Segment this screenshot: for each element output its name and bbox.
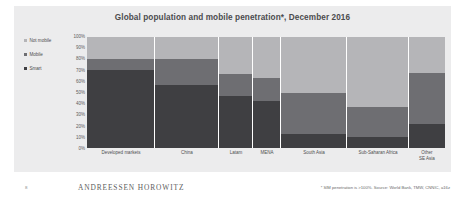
legend-label-smart: Smart — [29, 66, 41, 71]
source-note: * SIM penetration is >100%. Source: Worl… — [321, 185, 450, 190]
x-axis-label-primary: China — [155, 150, 219, 156]
y-axis-tick: 0% — [78, 146, 85, 151]
bar-segment-not-mobile — [281, 37, 346, 93]
legend-swatch-mobile — [24, 53, 27, 56]
bar-column — [253, 37, 281, 148]
y-axis-tick: 70% — [76, 67, 85, 72]
bar-segment-mobile — [347, 107, 408, 137]
bar-segment-not-mobile — [347, 37, 408, 107]
legend-label-mobile: Mobile — [29, 52, 43, 57]
y-axis-tick: 30% — [76, 112, 85, 117]
brand-wordmark: ANDREESSEN HOROWITZ — [78, 183, 184, 192]
bar-segment-smart — [219, 96, 252, 148]
bar-segment-not-mobile — [87, 37, 154, 59]
y-axis-tick: 60% — [76, 78, 85, 83]
x-axis-label: Sub-Saharan Africa — [347, 150, 409, 170]
plot-area — [87, 37, 445, 148]
x-axis-label: South Asia — [281, 150, 347, 170]
bar-column — [219, 37, 253, 148]
bar-segment-mobile — [253, 78, 280, 101]
x-axis-label: Developed markets — [87, 150, 155, 170]
bar-column — [281, 37, 347, 148]
bar-segment-smart — [409, 124, 445, 148]
x-axis-label-primary: MENA — [253, 150, 281, 156]
x-axis-label-primary: Developed markets — [87, 150, 155, 156]
bar-segment-mobile — [219, 74, 252, 96]
bar-segment-smart — [281, 134, 346, 148]
bar-column — [409, 37, 445, 148]
x-axis-label-primary: Sub-Saharan Africa — [347, 150, 409, 156]
bar-column — [155, 37, 219, 148]
chart-title: Global population and mobile penetration… — [14, 13, 451, 22]
bar-segment-not-mobile — [155, 37, 218, 59]
bar-segment-mobile — [409, 73, 445, 124]
y-axis-tick: 40% — [76, 101, 85, 106]
slide: Global population and mobile penetration… — [0, 0, 459, 205]
page-number: 8 — [25, 185, 27, 190]
bar-column — [347, 37, 409, 148]
x-axis-label: China — [155, 150, 219, 170]
legend-swatch-smart — [24, 67, 27, 70]
bar-segment-mobile — [281, 93, 346, 134]
y-axis-tick: 20% — [76, 123, 85, 128]
legend-swatch-not-mobile — [24, 39, 27, 42]
bar-segment-smart — [253, 101, 280, 148]
legend-label-not-mobile: Not mobile — [29, 38, 51, 43]
bar-segment-mobile — [87, 59, 154, 70]
y-axis-tick: 80% — [76, 56, 85, 61]
bar-segment-smart — [155, 85, 218, 148]
y-axis: 100%90%80%70%60%50%40%30%20%10%0% — [62, 36, 86, 148]
bar-segment-smart — [347, 137, 408, 148]
y-axis-tick: 100% — [73, 34, 85, 39]
x-axis-label-primary: Latam — [219, 150, 253, 156]
y-axis-tick: 10% — [76, 134, 85, 139]
y-axis-tick: 50% — [76, 90, 85, 95]
x-axis-label: MENA — [253, 150, 281, 170]
x-axis-label: Latam — [219, 150, 253, 170]
x-axis-label: OtherSE Asia — [409, 150, 445, 170]
bar-segment-smart — [87, 70, 154, 148]
bar-segment-not-mobile — [219, 37, 252, 74]
x-axis-label-secondary: SE Asia — [409, 156, 445, 162]
x-axis-labels: Developed marketsChinaLatamMENASouth Asi… — [87, 150, 445, 170]
bar-segment-not-mobile — [409, 37, 445, 73]
bar-segment-mobile — [155, 59, 218, 85]
bar-column — [87, 37, 155, 148]
x-axis-label-primary: South Asia — [281, 150, 347, 156]
bar-segment-not-mobile — [253, 37, 280, 78]
y-axis-tick: 90% — [76, 45, 85, 50]
